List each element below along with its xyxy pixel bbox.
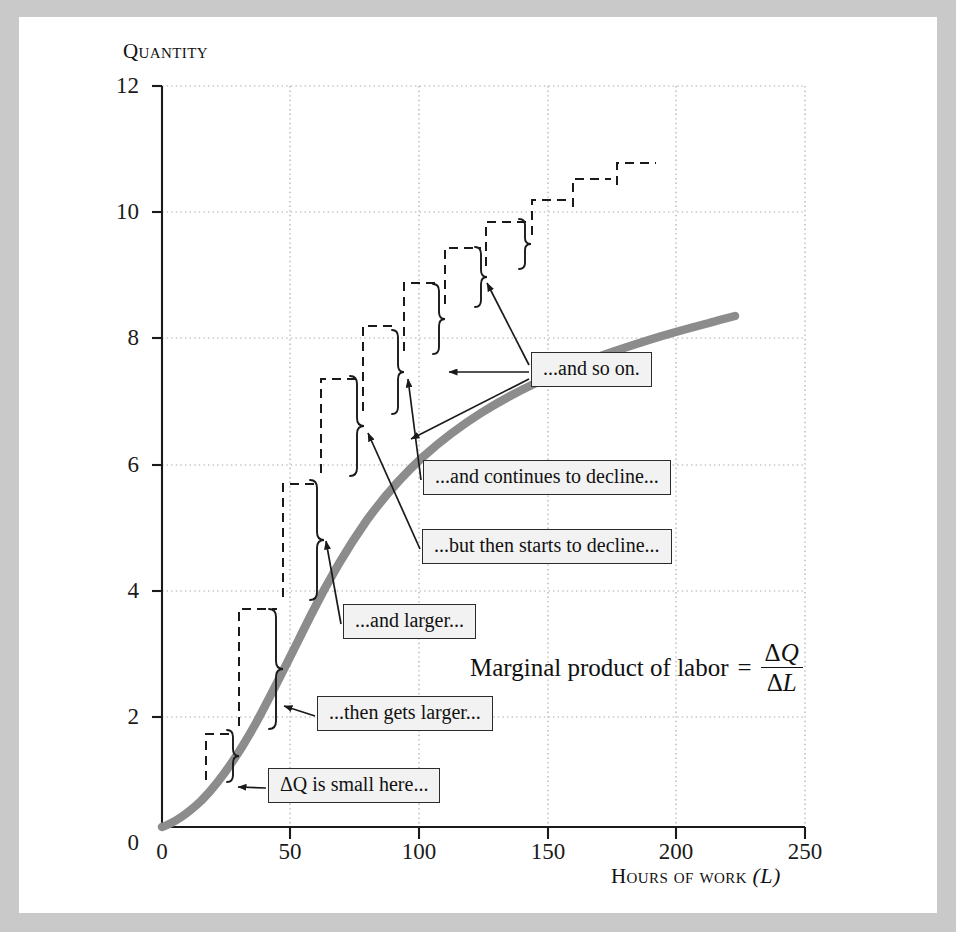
x-tick-50: 50 [268, 839, 312, 865]
y-tick-0: 0 [95, 830, 139, 856]
formula-equals-sign: = [738, 654, 752, 682]
formula-denominator: ΔL [763, 668, 801, 696]
figure-page: Quantity Hours of work (L) 12 10 8 6 4 2… [0, 0, 956, 932]
annotation-and-continues-to-decline: ...and continues to decline... [423, 460, 671, 495]
x-tick-150: 150 [526, 839, 570, 865]
formula-numerator-variable: Q [781, 639, 799, 666]
y-axis-title-label: Quantity [123, 39, 208, 63]
annotation-delta-q-small: ΔQ is small here... [268, 768, 440, 803]
formula-denominator-variable: L [783, 669, 797, 696]
y-tick-6: 6 [95, 452, 139, 478]
x-axis-title: Hours of work (L) [611, 863, 781, 889]
production-function-chart: Quantity Hours of work (L) 12 10 8 6 4 2… [19, 17, 937, 913]
formula-numerator: ΔQ [761, 640, 803, 668]
figure-paper: Quantity Hours of work (L) 12 10 8 6 4 2… [19, 17, 937, 913]
annotation-and-larger: ...and larger... [343, 604, 476, 639]
y-tick-8: 8 [95, 325, 139, 351]
formula-left-side: Marginal product of labor [470, 654, 729, 682]
y-tick-10: 10 [95, 199, 139, 225]
formula-denominator-delta: Δ [767, 669, 783, 696]
x-axis-title-label: Hours of work [611, 864, 747, 888]
y-axis-title: Quantity [123, 39, 208, 64]
marginal-product-formula: Marginal product of labor = ΔQ ΔL [470, 640, 803, 697]
production-function-curve [162, 316, 735, 827]
formula-fraction: ΔQ ΔL [761, 640, 803, 697]
x-axis-title-variable: (L) [753, 863, 781, 888]
x-tick-200: 200 [654, 839, 698, 865]
x-tick-100: 100 [397, 839, 441, 865]
annotation-but-then-starts-to-decline: ...but then starts to decline... [422, 529, 672, 564]
y-tick-2: 2 [95, 704, 139, 730]
annotation-and-so-on: ...and so on. [531, 352, 652, 387]
formula-numerator-delta: Δ [765, 639, 781, 666]
y-axis-ticks [152, 86, 162, 717]
x-tick-0: 0 [140, 839, 184, 865]
annotation-then-gets-larger: ...then gets larger... [317, 696, 493, 731]
x-axis-ticks [290, 827, 805, 839]
y-tick-4: 4 [95, 578, 139, 604]
x-tick-250: 250 [783, 839, 827, 865]
y-tick-12: 12 [95, 73, 139, 99]
